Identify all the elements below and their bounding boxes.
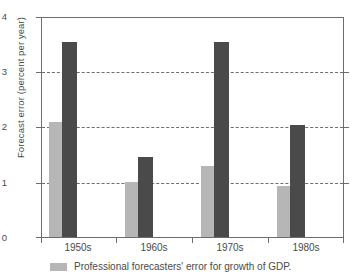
bar-1980s-dark: [290, 125, 305, 237]
y-axis-title: Forecast error (percent per year): [15, 0, 26, 183]
plot-area: [41, 17, 344, 238]
y-tick-1-left: [36, 183, 41, 184]
legend: Professional forecasters' error for grow…: [50, 261, 291, 272]
bar-1960s-dark: [138, 157, 153, 237]
x-label-1980s: 1980s: [276, 242, 336, 253]
y-tick-label-4: 4: [0, 12, 7, 22]
y-tick-2-left: [36, 127, 41, 128]
bar-1950s-dark: [62, 42, 77, 237]
axis-top: [41, 17, 344, 18]
y-tick-label-1: 1: [0, 178, 7, 188]
y-tick-1-right: [344, 183, 349, 184]
y-tick-3-right: [344, 72, 349, 73]
gridline-3: [42, 72, 343, 73]
bar-1950s-light: [49, 122, 62, 238]
y-tick-label-0: 0: [0, 233, 7, 243]
bar-1970s-dark: [214, 42, 229, 237]
x-label-1950s: 1950s: [48, 242, 108, 253]
y-tick-4-left: [36, 17, 41, 18]
x-label-1970s: 1970s: [200, 242, 260, 253]
y-tick-3-left: [36, 72, 41, 73]
bar-chart: Forecast error (percent per year) 4 3 2 …: [0, 0, 356, 278]
legend-swatch-light: [50, 263, 67, 271]
bar-1980s-light: [277, 186, 290, 237]
y-tick-label-2: 2: [0, 122, 7, 132]
legend-label-light: Professional forecasters' error for grow…: [74, 261, 291, 272]
x-axis-labels: 1950s 1960s 1970s 1980s: [41, 242, 344, 256]
y-tick-label-3: 3: [0, 67, 7, 77]
bar-1960s-light: [125, 182, 138, 237]
y-tick-2-right: [344, 127, 349, 128]
bar-1970s-light: [201, 166, 214, 238]
x-label-1960s: 1960s: [124, 242, 184, 253]
